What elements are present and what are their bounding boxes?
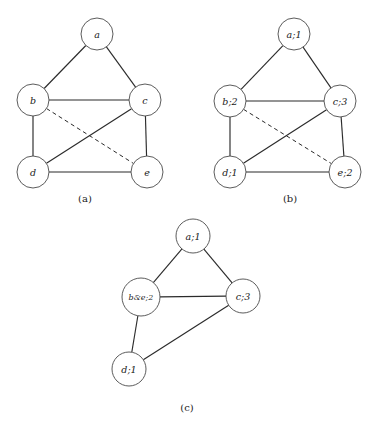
- panel-b-nodes: a;1b;2c;3d;1e;2: [214, 18, 361, 188]
- graph-node-c[interactable]: c: [129, 84, 161, 116]
- figure-root: abcde(a)a;1b;2c;3d;1e;2(b)a;1b&e;2c;3d;1…: [0, 0, 374, 421]
- panel-c-caption: (c): [180, 402, 194, 413]
- graph-node-label: b: [30, 95, 36, 106]
- graph-node-d[interactable]: d;1: [112, 352, 146, 386]
- panel-a-edges: [33, 45, 147, 172]
- graph-figure-canvas: abcde(a)a;1b;2c;3d;1e;2(b)a;1b&e;2c;3d;1…: [0, 0, 374, 421]
- graph-node-b[interactable]: b;2: [214, 85, 246, 117]
- graph-node-a[interactable]: a;1: [176, 219, 210, 253]
- graph-node-label: e;2: [338, 167, 353, 178]
- graph-node-label: b;2: [222, 96, 237, 107]
- graph-edge-b-e: [244, 109, 332, 163]
- graph-node-c[interactable]: c;3: [226, 279, 260, 313]
- graph-node-label: a;1: [287, 29, 302, 40]
- panel-b-caption: (b): [283, 193, 297, 204]
- graph-node-label: e: [144, 167, 150, 178]
- graph-node-label: c: [142, 95, 148, 106]
- panel-a-caption: (a): [78, 193, 92, 204]
- graph-edge-d-c: [143, 305, 228, 360]
- graph-edge-c-e: [341, 117, 344, 156]
- graph-node-label: d;1: [121, 364, 136, 375]
- graph-edge-a-b: [241, 46, 283, 90]
- graph-edge-be-c: [160, 296, 226, 297]
- graph-node-d[interactable]: d;1: [214, 156, 246, 188]
- graph-node-label: d: [30, 167, 36, 178]
- graph-edge-d-c: [243, 110, 326, 164]
- graph-edge-be-d: [132, 316, 138, 352]
- graph-node-be[interactable]: b&e;2: [122, 278, 160, 316]
- panel-b: a;1b;2c;3d;1e;2(b): [214, 18, 361, 204]
- graph-edge-a-be: [153, 249, 182, 283]
- graph-edge-c-e: [145, 116, 146, 156]
- panel-a-nodes: abcde: [17, 18, 163, 188]
- panel-c: a;1b&e;2c;3d;1(c): [112, 219, 260, 413]
- graph-node-label: c;3: [236, 291, 251, 302]
- panel-c-nodes: a;1b&e;2c;3d;1: [112, 219, 260, 386]
- graph-edge-a-c: [106, 47, 135, 87]
- graph-node-a[interactable]: a: [81, 18, 113, 50]
- graph-node-e[interactable]: e;2: [329, 156, 361, 188]
- graph-edge-a-c: [204, 249, 232, 283]
- graph-node-label: d;1: [222, 167, 237, 178]
- panel-a: abcde(a): [17, 18, 163, 204]
- graph-node-label: b&e;2: [129, 293, 154, 302]
- graph-node-a[interactable]: a;1: [278, 18, 310, 50]
- graph-node-d[interactable]: d: [17, 156, 49, 188]
- graph-edge-a-b: [44, 45, 86, 88]
- graph-node-c[interactable]: c;3: [324, 85, 356, 117]
- graph-node-b[interactable]: b: [17, 84, 49, 116]
- graph-node-label: c;3: [333, 96, 348, 107]
- graph-node-label: a: [94, 29, 100, 40]
- graph-node-e[interactable]: e: [131, 156, 163, 188]
- graph-edge-a-c: [303, 47, 331, 88]
- graph-node-label: a;1: [186, 231, 201, 242]
